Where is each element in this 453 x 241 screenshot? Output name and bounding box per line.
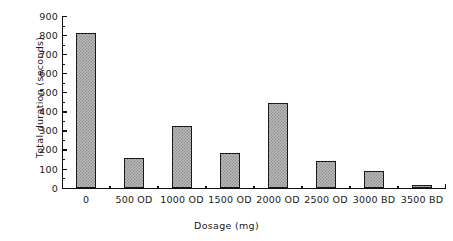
plot-area: 0100200300400500600700800900 0500 OD1000… [62, 16, 446, 189]
y-tick-label: 400 [39, 106, 58, 117]
x-minor-tick-mark [109, 186, 110, 189]
x-minor-tick-mark [205, 186, 206, 189]
x-minor-tick-mark [397, 186, 398, 189]
y-minor-tick-mark [62, 83, 65, 84]
y-tick-label: 0 [52, 182, 58, 193]
x-minor-tick-mark [253, 186, 254, 189]
x-tick-label: 3500 BD [401, 194, 443, 205]
x-tick-label: 2000 OD [256, 194, 299, 205]
y-tick-label: 900 [39, 11, 58, 22]
y-minor-tick-mark [62, 178, 65, 179]
y-tick-label: 600 [39, 68, 58, 79]
y-minor-tick-mark [62, 64, 65, 65]
bar [316, 161, 336, 188]
y-tick-label: 800 [39, 30, 58, 41]
y-tick-mark [62, 92, 67, 93]
y-tick-label: 300 [39, 125, 58, 136]
y-tick-mark [62, 54, 67, 55]
y-tick-mark [62, 169, 67, 170]
x-tick-label: 2500 OD [304, 194, 347, 205]
bar [172, 126, 192, 187]
y-minor-tick-mark [62, 121, 65, 122]
y-tick-mark [62, 130, 67, 131]
bar [76, 33, 96, 187]
bar [124, 158, 144, 188]
x-tick-label: 1000 OD [160, 194, 203, 205]
y-tick-mark [62, 16, 67, 17]
y-tick-label: 200 [39, 144, 58, 155]
bar [268, 103, 288, 187]
x-tick-label: 3000 BD [353, 194, 395, 205]
x-minor-tick-mark [301, 186, 302, 189]
x-axis-right-cap [445, 184, 446, 189]
y-tick-label: 500 [39, 87, 58, 98]
x-tick-label: 500 OD [115, 194, 152, 205]
y-minor-tick-mark [62, 45, 65, 46]
y-minor-tick-mark [62, 159, 65, 160]
y-minor-tick-mark [62, 140, 65, 141]
bar-chart-figure: Total duration (seconds) 010020030040050… [0, 0, 453, 241]
x-tick-label: 0 [83, 194, 89, 205]
y-tick-mark [62, 188, 67, 189]
y-tick-mark [62, 35, 67, 36]
x-tick-label: 1500 OD [208, 194, 251, 205]
x-minor-tick-mark [157, 186, 158, 189]
bar [220, 153, 240, 188]
x-axis-title: Dosage (mg) [0, 220, 453, 231]
x-minor-tick-mark [349, 186, 350, 189]
y-tick-label: 100 [39, 163, 58, 174]
y-tick-mark [62, 111, 67, 112]
bar [412, 185, 432, 188]
y-minor-tick-mark [62, 26, 65, 27]
y-minor-tick-mark [62, 102, 65, 103]
bar [364, 171, 384, 188]
y-tick-mark [62, 149, 67, 150]
y-tick-mark [62, 73, 67, 74]
y-tick-label: 700 [39, 49, 58, 60]
